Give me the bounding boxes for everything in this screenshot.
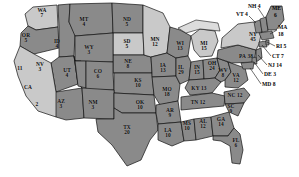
- state-shape-ok[interactable]: [114, 93, 156, 113]
- state-shape-in[interactable]: [189, 60, 204, 80]
- state-shape-ky[interactable]: [185, 78, 221, 95]
- state-shape-mi[interactable]: [191, 29, 218, 57]
- state-shape-nm[interactable]: [82, 88, 114, 119]
- state-shape-co[interactable]: [86, 61, 114, 90]
- state-shape-al[interactable]: [194, 117, 213, 140]
- state-shape-la[interactable]: [158, 122, 184, 146]
- state-shape-me[interactable]: [266, 6, 284, 30]
- leader-line-nh: [258, 8, 264, 17]
- state-shape-mo[interactable]: [152, 76, 180, 105]
- state-shape-ks[interactable]: [114, 73, 154, 95]
- state-shape-az[interactable]: [56, 88, 84, 120]
- state-shape-ia[interactable]: [151, 53, 176, 77]
- state-shape-wy[interactable]: [75, 33, 113, 62]
- state-shape-mn[interactable]: [143, 5, 170, 57]
- map-graphic: [0, 0, 299, 177]
- state-shape-ne[interactable]: [113, 55, 152, 73]
- state-shape-ms[interactable]: [181, 119, 196, 141]
- state-shapes: [14, 3, 284, 166]
- state-shape-nj[interactable]: [256, 48, 262, 62]
- state-shape-nc[interactable]: [224, 88, 250, 104]
- state-shape-md[interactable]: [241, 62, 254, 69]
- electoral-map: WA7OR5ID4MT4ND5SD5NE8WY3NV3UT4CO6KS1011C…: [0, 0, 299, 177]
- leader-line-md: [250, 68, 261, 84]
- state-shape-sd[interactable]: [113, 33, 144, 55]
- leader-line-de: [254, 62, 263, 74]
- state-shape-mt[interactable]: [69, 3, 113, 36]
- state-shape-ar[interactable]: [156, 101, 181, 124]
- state-shape-tn[interactable]: [181, 93, 225, 110]
- state-shape-wa[interactable]: [25, 5, 58, 30]
- state-shape-nd[interactable]: [112, 3, 143, 33]
